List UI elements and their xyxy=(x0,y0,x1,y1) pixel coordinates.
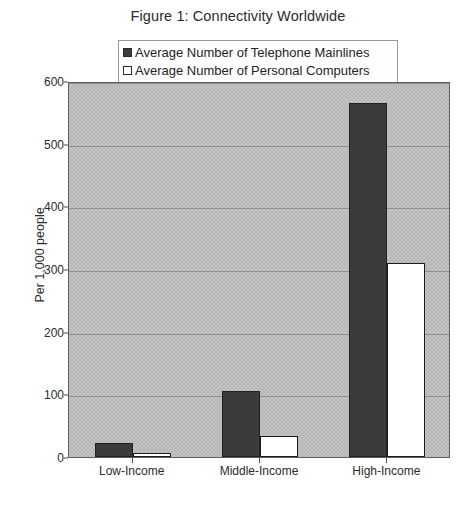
legend-label-telephone-mainlines: Average Number of Telephone Mainlines xyxy=(135,44,369,61)
gridline xyxy=(69,146,449,147)
x-axis-tick-mark xyxy=(259,458,260,463)
legend-item-personal-computers: Average Number of Personal Computers xyxy=(123,61,395,79)
y-axis-tick-label: 200 xyxy=(24,326,64,340)
legend-item-telephone-mainlines: Average Number of Telephone Mainlines xyxy=(123,43,395,61)
figure-container: Figure 1: Connectivity Worldwide Average… xyxy=(0,0,476,509)
gridline xyxy=(69,83,449,84)
bar xyxy=(133,453,171,457)
chart-legend: Average Number of Telephone Mainlines Av… xyxy=(118,40,398,83)
y-axis-tick-label: 400 xyxy=(24,200,64,214)
gridline xyxy=(69,208,449,209)
x-axis-category-labels: Low-IncomeMiddle-IncomeHigh-Income xyxy=(68,464,450,484)
legend-swatch-filled-dark-square-icon xyxy=(123,48,132,57)
legend-swatch-outlined-white-square-icon xyxy=(123,66,132,75)
legend-label-personal-computers: Average Number of Personal Computers xyxy=(135,62,370,79)
y-axis-tick-label: 500 xyxy=(24,138,64,152)
bar xyxy=(222,391,260,457)
x-axis-tick-mark xyxy=(132,458,133,463)
bar xyxy=(260,436,298,457)
y-axis-tick-label: 600 xyxy=(24,75,64,89)
plot-area xyxy=(68,82,450,458)
bar xyxy=(349,103,387,457)
bar xyxy=(95,443,133,457)
bar xyxy=(387,263,425,457)
x-axis-category-label: Low-Income xyxy=(99,464,164,478)
y-axis-tick-label: 0 xyxy=(24,451,64,465)
y-axis-tick-label: 100 xyxy=(24,388,64,402)
x-axis-category-label: Middle-Income xyxy=(220,464,299,478)
chart-title: Figure 1: Connectivity Worldwide xyxy=(0,8,476,24)
y-axis-tick-label: 300 xyxy=(24,263,64,277)
y-axis-tick-labels: 0100200300400500600 xyxy=(20,82,64,458)
x-axis-category-label: High-Income xyxy=(352,464,420,478)
x-axis-tick-mark xyxy=(386,458,387,463)
